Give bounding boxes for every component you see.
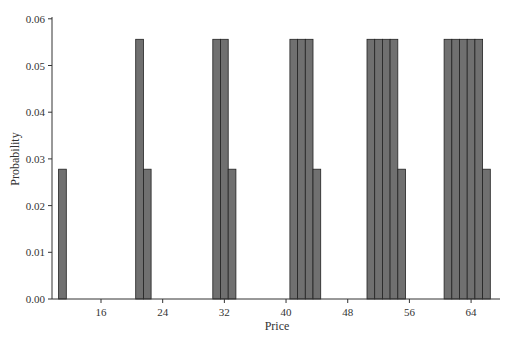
x-tick-label: 24 [157, 306, 169, 318]
bar [444, 39, 452, 299]
bar [143, 169, 151, 299]
bar [382, 39, 390, 299]
y-tick-label: 0.00 [26, 293, 46, 305]
bar [390, 39, 398, 299]
y-tick-label: 0.01 [26, 246, 45, 258]
y-tick-label: 0.04 [26, 106, 46, 118]
x-tick-label: 16 [96, 306, 108, 318]
probability-bar-chart: 16243240485664 0.000.010.020.030.040.050… [0, 0, 508, 342]
bar [136, 39, 144, 299]
bar [213, 39, 221, 299]
x-tick-label: 40 [281, 306, 293, 318]
bar [375, 39, 383, 299]
bar [228, 169, 236, 299]
bar [313, 169, 321, 299]
x-tick-label: 64 [466, 306, 478, 318]
y-tick-label: 0.06 [26, 13, 46, 25]
y-axis: 0.000.010.020.030.040.050.06 [26, 13, 52, 305]
bar [221, 39, 229, 299]
bar [290, 39, 298, 299]
bar [483, 169, 491, 299]
bar [460, 39, 468, 299]
bar [59, 169, 67, 299]
x-axis-title: Price [265, 319, 290, 333]
bar [398, 169, 406, 299]
bars [59, 39, 491, 299]
y-tick-label: 0.05 [26, 60, 46, 72]
x-tick-label: 48 [342, 306, 354, 318]
bar [475, 39, 483, 299]
y-axis-title: Probability [8, 132, 22, 185]
x-tick-label: 56 [404, 306, 416, 318]
bar [467, 39, 475, 299]
x-tick-label: 32 [219, 306, 230, 318]
y-tick-label: 0.03 [26, 153, 46, 165]
bar [367, 39, 375, 299]
bar [305, 39, 313, 299]
x-axis: 16243240485664 [52, 299, 500, 318]
y-tick-label: 0.02 [26, 200, 45, 212]
bar [452, 39, 460, 299]
bar [298, 39, 306, 299]
